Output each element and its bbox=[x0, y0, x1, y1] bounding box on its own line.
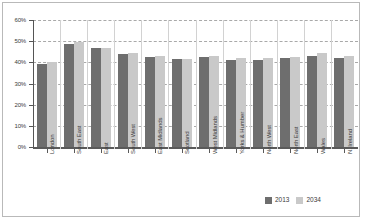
x-axis-category-label: Wales bbox=[320, 138, 326, 154]
legend-swatch bbox=[296, 197, 303, 204]
x-axis-category-label: North West bbox=[266, 125, 272, 154]
bar-2013 bbox=[307, 56, 317, 147]
x-tick bbox=[182, 149, 183, 153]
legend-label: 2034 bbox=[306, 197, 320, 204]
y-axis-tick-label: 60% bbox=[2, 17, 26, 23]
x-tick bbox=[290, 149, 291, 153]
bar-2013 bbox=[91, 48, 101, 147]
bar-2013 bbox=[64, 44, 74, 147]
x-tick bbox=[344, 149, 345, 153]
category-divider bbox=[250, 20, 251, 149]
bar-2013 bbox=[226, 60, 236, 147]
y-tick bbox=[29, 147, 34, 148]
x-axis-category-label: South West bbox=[130, 124, 136, 154]
y-tick bbox=[29, 20, 34, 21]
bar-2013 bbox=[118, 54, 128, 147]
chart-legend: 20132034 bbox=[265, 197, 321, 204]
x-tick bbox=[236, 149, 237, 153]
y-axis-tick-label: 30% bbox=[2, 81, 26, 87]
bar-2034 bbox=[317, 53, 327, 147]
y-tick bbox=[29, 126, 34, 127]
bar-2013 bbox=[145, 57, 155, 147]
bar-group bbox=[334, 20, 354, 147]
x-axis-category-label: East Midlands bbox=[157, 118, 163, 154]
y-tick bbox=[29, 105, 34, 106]
y-axis-tick-label: 10% bbox=[2, 123, 26, 129]
legend-item: 2034 bbox=[296, 197, 320, 204]
category-divider bbox=[331, 20, 332, 149]
y-axis-tick-label: 20% bbox=[2, 102, 26, 108]
x-axis-category-label: London bbox=[49, 135, 55, 154]
x-tick bbox=[209, 149, 210, 153]
category-divider bbox=[141, 20, 142, 149]
category-divider bbox=[114, 20, 115, 149]
x-tick bbox=[74, 149, 75, 153]
x-axis-category-label: East bbox=[103, 142, 109, 154]
category-divider bbox=[60, 20, 61, 149]
legend-label: 2013 bbox=[275, 197, 289, 204]
category-divider bbox=[196, 20, 197, 149]
x-axis-category-label: South East bbox=[76, 126, 82, 154]
x-axis-category-label: N. Ireland bbox=[347, 129, 353, 154]
y-axis-tick-label: 50% bbox=[2, 38, 26, 44]
category-divider bbox=[168, 20, 169, 149]
y-tick bbox=[29, 41, 34, 42]
bar-2013 bbox=[280, 58, 290, 147]
y-axis-line bbox=[33, 20, 34, 149]
bar-2013 bbox=[37, 64, 47, 147]
category-divider bbox=[277, 20, 278, 149]
x-tick bbox=[317, 149, 318, 153]
x-tick bbox=[128, 149, 129, 153]
x-axis-category-label: Yorks & Humber bbox=[239, 112, 245, 154]
x-axis-category-label: Scotland bbox=[184, 131, 190, 154]
chart-frame: 60%50%40%30%20%10%0% LondonSouth EastEas… bbox=[2, 2, 360, 217]
legend-swatch bbox=[265, 197, 272, 204]
x-axis-category-label: North East bbox=[293, 127, 299, 154]
bar-group bbox=[37, 20, 57, 147]
category-divider bbox=[304, 20, 305, 149]
category-divider bbox=[223, 20, 224, 149]
y-axis-tick-label: 40% bbox=[2, 59, 26, 65]
x-tick bbox=[47, 149, 48, 153]
bar-2013 bbox=[253, 60, 263, 147]
x-tick bbox=[155, 149, 156, 153]
bar-2013 bbox=[172, 59, 182, 147]
x-tick bbox=[101, 149, 102, 153]
bar-group bbox=[91, 20, 111, 147]
legend-item: 2013 bbox=[265, 197, 289, 204]
bar-2013 bbox=[334, 58, 344, 147]
bar-group bbox=[307, 20, 327, 147]
y-axis-tick-label: 0% bbox=[2, 144, 26, 150]
bar-group bbox=[172, 20, 192, 147]
y-tick bbox=[29, 84, 34, 85]
x-axis-category-label: West Midlands bbox=[212, 116, 218, 154]
y-tick bbox=[29, 62, 34, 63]
bar-2034 bbox=[101, 48, 111, 147]
bar-2013 bbox=[199, 57, 209, 147]
category-divider bbox=[87, 20, 88, 149]
x-tick bbox=[263, 149, 264, 153]
